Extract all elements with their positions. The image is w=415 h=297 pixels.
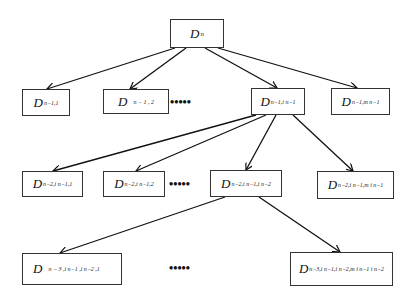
edge-l1-3-l2-3 [246, 115, 276, 170]
node-subscript: n−2,i n−1,1 [43, 181, 72, 187]
node-level2-1: Dn−2,i n−1,1 [22, 171, 83, 197]
edge-root-l1-1 [47, 48, 175, 89]
node-subscript: n−1,1 [44, 100, 59, 106]
edge-root-l1-2 [130, 48, 186, 89]
node-label: D [33, 176, 42, 192]
node-subscript: n [200, 30, 204, 38]
node-level1-4: Dn−1,m n−1 [331, 88, 390, 115]
node-level2-2: Dn−2,i n−1,2 [103, 171, 165, 197]
node-label: D [114, 176, 123, 192]
ellipsis-level1: ••••• [170, 95, 191, 110]
node-label: D [190, 26, 199, 42]
node-label: D [33, 261, 42, 277]
node-subscript: n−1,i n−1 [271, 99, 296, 105]
node-subscript: n−3,i n−1,i n−2,m i n−1 i n−2 [309, 266, 384, 272]
node-label: D [260, 94, 269, 110]
edge-l1-3-l2-4 [293, 115, 353, 171]
node-level2-3: Dn−2,i n−1,i n−2 [210, 170, 282, 197]
node-level1-2: Dn − 1 , 2 [103, 89, 169, 114]
edge-l2-3-l3-2 [259, 197, 340, 252]
node-level3-1: Dn − 3 ,i n−1 ,i n−2 ,1 [22, 253, 122, 285]
node-subscript: n−1,m n−1 [352, 99, 379, 105]
node-level3-2: Dn−3,i n−1,i n−2,m i n−1 i n−2 [290, 252, 393, 286]
node-subscript: n − 1 , 2 [133, 99, 154, 105]
node-label: D [342, 94, 351, 110]
node-subscript: n−2,i n−1,2 [125, 181, 154, 187]
node-label: D [299, 261, 308, 277]
node-subscript: n−2,i n−1,m i n−1 [338, 182, 383, 188]
node-label: D [328, 177, 337, 193]
edge-l2-3-l3-1 [60, 197, 225, 253]
ellipsis-level3: ••••• [169, 261, 190, 276]
node-subscript: n−2,i n−1,i n−2 [231, 181, 270, 187]
node-label: D [34, 95, 43, 111]
edge-root-l1-4 [218, 48, 357, 88]
node-level1-3: Dn−1,i n−1 [251, 88, 305, 115]
node-root: Dn [170, 19, 224, 48]
node-level1-1: Dn−1,1 [22, 89, 70, 116]
node-label: D [221, 176, 230, 192]
node-subscript: n − 3 ,i n−1 ,i n−2 ,1 [48, 266, 99, 272]
node-label: D [118, 94, 127, 110]
ellipsis-level2: ••••• [169, 177, 190, 192]
node-level2-4: Dn−2,i n−1,m i n−1 [317, 171, 394, 199]
